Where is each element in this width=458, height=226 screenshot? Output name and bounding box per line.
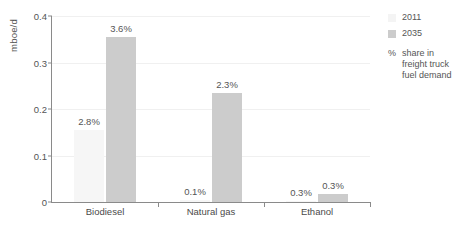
- y-tick-label: 0.1: [34, 150, 47, 161]
- bar-label-biodiesel-2035: 3.6%: [110, 23, 132, 34]
- plot-area: 00.10.20.30.4 2.8%3.6%0.1%2.3%0.3%0.3% B…: [52, 16, 370, 202]
- y-tick-mark: [48, 62, 52, 63]
- bar-biodiesel-2011: [74, 130, 104, 202]
- gridline: [52, 63, 370, 64]
- percent-note-text: share in freight truck fuel demand: [402, 48, 458, 82]
- y-tick-label: 0.3: [34, 57, 47, 68]
- bar-label-natural-gas-2011: 0.1%: [184, 186, 206, 197]
- category-label-ethanol: Ethanol: [301, 206, 333, 217]
- bar-label-natural-gas-2035: 2.3%: [216, 79, 238, 90]
- legend-item-percent-note: % share in freight truck fuel demand: [388, 48, 458, 82]
- y-tick-label: 0: [42, 197, 47, 208]
- category-divider: [370, 202, 371, 207]
- bar-ethanol-2035: [318, 194, 348, 202]
- y-axis-title: mboe/d: [8, 1, 19, 71]
- bar-label-ethanol-2035: 0.3%: [322, 180, 344, 191]
- legend-label-2035: 2035: [402, 28, 422, 39]
- category-label-biodiesel: Biodiesel: [86, 206, 125, 217]
- x-axis-line: [51, 202, 371, 203]
- gridline: [52, 109, 370, 110]
- legend-swatch-2011-icon: [388, 14, 396, 22]
- category-divider: [158, 202, 159, 207]
- category-label-natural-gas: Natural gas: [187, 206, 236, 217]
- y-tick-label: 0.2: [34, 104, 47, 115]
- gridline: [52, 16, 370, 17]
- bar-chart-figure: mboe/d 00.10.20.30.4 2.8%3.6%0.1%2.3%0.3…: [0, 0, 458, 226]
- bar-label-biodiesel-2011: 2.8%: [78, 116, 100, 127]
- legend-label-2011: 2011: [402, 12, 421, 23]
- bar-natural-gas-2035: [212, 93, 242, 202]
- y-tick-mark: [48, 202, 52, 203]
- category-divider: [264, 202, 265, 207]
- bar-ethanol-2011: [286, 201, 316, 202]
- legend-item-2035: 2035: [388, 28, 458, 39]
- y-tick-mark: [48, 109, 52, 110]
- legend: 2011 2035 % share in freight truck fuel …: [388, 12, 458, 86]
- legend-item-2011: 2011: [388, 12, 458, 23]
- bar-natural-gas-2011: [180, 200, 210, 202]
- y-tick-label: 0.4: [34, 11, 47, 22]
- legend-swatch-2035-icon: [388, 30, 396, 38]
- bar-label-ethanol-2011: 0.3%: [290, 187, 312, 198]
- percent-symbol: %: [388, 48, 396, 58]
- bar-biodiesel-2035: [106, 37, 136, 202]
- y-tick-mark: [48, 155, 52, 156]
- y-tick-mark: [48, 16, 52, 17]
